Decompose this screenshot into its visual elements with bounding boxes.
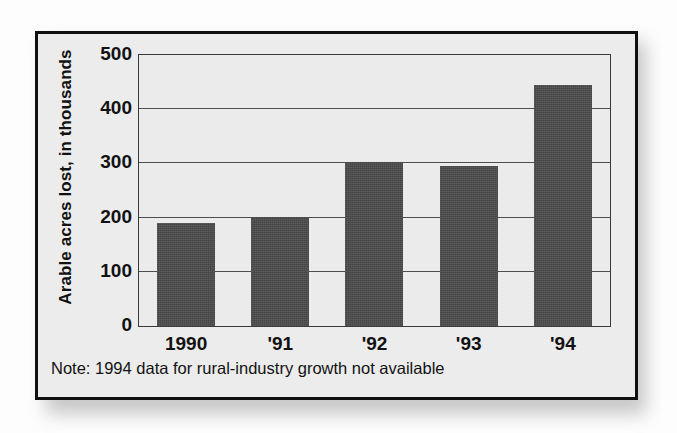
scanned-page: Arable acres lost, in thousands 01002003…	[0, 0, 677, 433]
x-tick-label-94: '94	[516, 333, 610, 355]
y-axis-title: Arable acres lost, in thousands	[56, 32, 76, 322]
y-tick-label-200: 200	[100, 206, 132, 228]
plot-area: 0100200300400500 1990'91'92'93'94	[138, 54, 611, 327]
bar-slot-94: '94	[516, 55, 610, 326]
bar-slot-93: '93	[422, 55, 516, 326]
bar-93	[440, 166, 498, 326]
bar-slot-91: '91	[233, 55, 327, 326]
bar-92	[345, 162, 403, 326]
bar-91	[251, 218, 309, 326]
y-tick-label-0: 0	[121, 314, 132, 336]
y-tick-label-100: 100	[100, 260, 132, 282]
bar-slot-1990: 1990	[139, 55, 233, 326]
bar-94	[534, 85, 592, 326]
x-tick-label-93: '93	[422, 333, 516, 355]
chart-figure-frame: Arable acres lost, in thousands 01002003…	[35, 31, 638, 400]
bar-1990	[157, 223, 215, 326]
figure-footnote: Note: 1994 data for rural-industry growt…	[51, 359, 444, 378]
y-tick-label-300: 300	[100, 151, 132, 173]
bar-slot-92: '92	[327, 55, 421, 326]
bar-series: 1990'91'92'93'94	[139, 55, 610, 326]
x-tick-label-1990: 1990	[139, 333, 233, 355]
y-tick-label-500: 500	[100, 43, 132, 65]
x-tick-label-92: '92	[327, 333, 421, 355]
x-tick-label-91: '91	[233, 333, 327, 355]
y-tick-label-400: 400	[100, 97, 132, 119]
